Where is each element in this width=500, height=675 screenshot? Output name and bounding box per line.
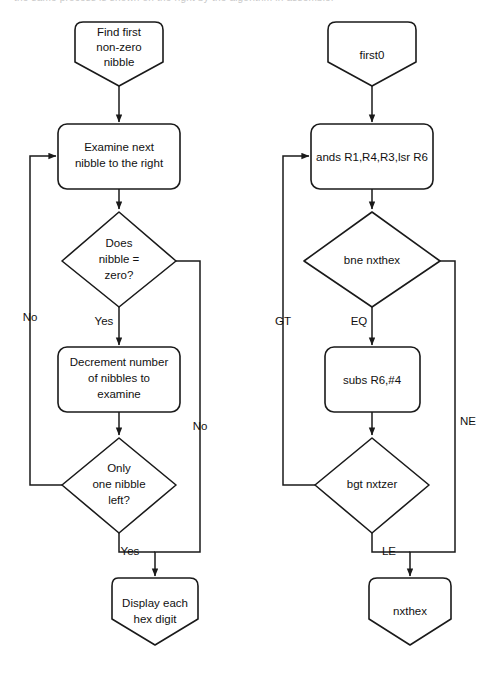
- node-display-each-hex-digit[interactable]: [112, 578, 198, 645]
- node-ands-label: ands R1,R4,R3,lsr R6: [316, 151, 428, 163]
- edge-decision-zero-no-to-display: [155, 261, 200, 576]
- node-subs-label: subs R6,#4: [343, 374, 402, 386]
- node-decrement-line3: examine: [97, 388, 140, 400]
- node-bne-label: bne nxthex: [344, 254, 401, 266]
- edge-label-zero-no-right: No: [193, 420, 208, 432]
- node-find-first-line3: nibble: [104, 56, 135, 68]
- node-find-first-line1: Find first: [97, 26, 142, 38]
- node-decrement-line1: Decrement number: [70, 356, 169, 368]
- node-decrement-line2: of nibbles to: [88, 372, 150, 384]
- edge-label-bne-ne: NE: [460, 415, 476, 427]
- node-bgt-label: bgt nxtzer: [347, 478, 398, 490]
- node-does-nibble-line1: Does: [106, 237, 133, 249]
- node-does-nibble-line3: zero?: [105, 269, 134, 281]
- left-node-text: Find first non-zero nibble Examine next …: [70, 26, 188, 625]
- flowchart-canvas: the same process is shown on the right b…: [0, 0, 500, 675]
- edge-label-bgt-le: LE: [382, 545, 396, 557]
- edge-label-last-no-left: No: [23, 311, 38, 323]
- node-nxthex-label: nxthex: [393, 605, 427, 617]
- node-does-nibble-line2: nibble =: [99, 253, 140, 265]
- edge-bne-ne-to-nxthex: [410, 261, 455, 576]
- node-only-one-line3: left?: [108, 494, 130, 506]
- edge-label-bne-eq: EQ: [351, 315, 368, 327]
- edge-label-bgt-gt: GT: [275, 315, 291, 327]
- node-only-one-line2: one nibble: [92, 478, 145, 490]
- node-examine-line1: Examine next: [84, 141, 154, 153]
- node-display-line1: Display each: [122, 597, 188, 609]
- node-first0-label: first0: [360, 49, 385, 61]
- node-find-first-line2: non-zero: [96, 41, 141, 53]
- node-examine-line2: nibble to the right: [75, 157, 164, 169]
- edge-label-last-yes: Yes: [121, 545, 140, 557]
- node-display-line2: hex digit: [134, 613, 178, 625]
- flowchart-svg: Find first non-zero nibble Examine next …: [0, 0, 500, 675]
- node-only-one-line1: Only: [107, 462, 131, 474]
- edge-label-zero-yes: Yes: [95, 315, 114, 327]
